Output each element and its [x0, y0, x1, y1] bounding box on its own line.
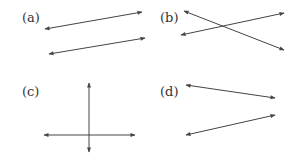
- panel-b: (b): [160, 10, 284, 50]
- panel-a-line-1-arrow-icon: [45, 12, 142, 29]
- panel-a-line-2-arrow-icon: [49, 38, 145, 54]
- panel-a: (a): [22, 10, 145, 54]
- panel-d: (d): [160, 84, 275, 135]
- panel-d-label: (d): [160, 84, 178, 99]
- panel-d-line-2-arrow-icon: [186, 115, 275, 135]
- panel-b-label: (b): [160, 10, 178, 25]
- panel-c-label: (c): [22, 84, 39, 99]
- panel-a-label: (a): [22, 10, 40, 25]
- panel-b-line-1-arrow-icon: [184, 11, 284, 50]
- panel-c: (c): [22, 83, 135, 152]
- lines-diagram: (a) (b) (c) (d): [0, 0, 294, 155]
- panel-d-line-1-arrow-icon: [186, 85, 275, 98]
